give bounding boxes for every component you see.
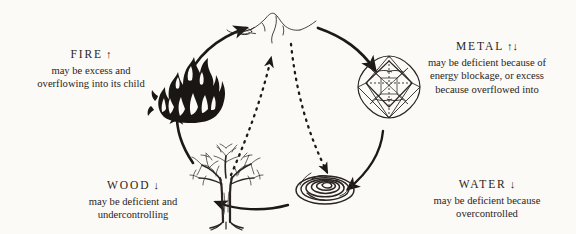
label-fire: FIRE↑ may be excess and overflowing into… <box>2 44 180 91</box>
dashed-arrow-metal-to-water <box>291 44 327 172</box>
label-metal-arrows: ↑↓ <box>507 40 518 53</box>
label-wood-name: WOOD <box>107 179 150 193</box>
label-water-arrows: ↓ <box>510 178 516 191</box>
label-fire-arrows: ↑ <box>106 48 112 61</box>
label-wood: WOOD↓ may be deficient and undercontroll… <box>44 175 222 222</box>
label-water-heading: WATER↓ <box>398 174 576 193</box>
label-wood-heading: WOOD↓ <box>44 175 222 194</box>
ripple-icon <box>296 173 354 204</box>
label-wood-description: may be deficient and undercontrolling <box>44 195 222 222</box>
controlling-cycle-arrows <box>231 44 327 175</box>
label-metal-heading: METAL↑↓ <box>398 36 576 55</box>
arc-metal-to-water <box>348 131 383 189</box>
label-metal: METAL↑↓ may be deficient because of ener… <box>398 36 576 97</box>
label-fire-heading: FIRE↑ <box>2 44 180 63</box>
label-water: WATER↓ may be deficient because overcont… <box>398 174 576 221</box>
dashed-arrow-wood-to-earth <box>231 58 271 175</box>
label-fire-name: FIRE <box>70 48 103 62</box>
label-water-name: WATER <box>459 178 507 192</box>
arc-earth-to-metal <box>318 28 375 70</box>
five-element-diagram: FIRE↑ may be excess and overflowing into… <box>0 0 576 234</box>
label-water-description: may be deficient because overcontrolled <box>398 194 576 221</box>
mountain-icon <box>227 13 316 43</box>
arc-water-to-wood <box>216 202 288 209</box>
label-metal-name: METAL <box>456 40 504 54</box>
label-fire-description: may be excess and overflowing into its c… <box>2 64 180 91</box>
label-metal-description: may be deficient because of energy block… <box>398 56 576 97</box>
label-wood-arrows: ↓ <box>153 179 159 192</box>
